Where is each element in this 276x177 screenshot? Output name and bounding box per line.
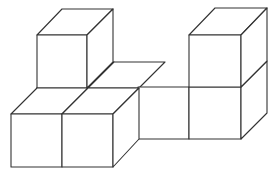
cube-diagram-svg [0,0,276,177]
front-face [11,114,62,167]
front-face [62,114,113,167]
front-face [138,87,189,139]
front-face [189,87,241,139]
cube-diagram [0,0,276,177]
front-face [189,35,241,87]
front-face [37,35,87,88]
